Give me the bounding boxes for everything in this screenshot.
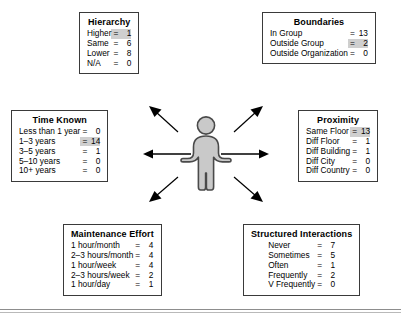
stat-row: Lower=8 xyxy=(87,48,131,58)
stat-rows-boundaries: In Group=13Outside Group=2Outside Organi… xyxy=(270,29,368,58)
stat-label: 1–3 years xyxy=(19,137,80,147)
stat-row: 1 hour/day=1 xyxy=(71,280,153,290)
stat-row: Diff Building=1 xyxy=(306,146,370,156)
stat-label: Same xyxy=(87,39,111,49)
stat-equals: = xyxy=(111,48,120,58)
stat-rows-proximity: Same Floor=13Diff Floor=1Diff Building=1… xyxy=(306,127,370,176)
stat-equals: = xyxy=(315,260,324,270)
stat-value: 0 xyxy=(324,280,335,290)
footer-rule-lower xyxy=(0,312,401,313)
arrow-up-right-icon xyxy=(234,106,263,132)
box-title: Hierarchy xyxy=(87,17,131,27)
box-title: Structured Interactions xyxy=(251,229,352,239)
box-title: Time Known xyxy=(19,115,100,125)
stat-row: Same=6 xyxy=(87,39,131,49)
stat-equals: = xyxy=(348,39,357,49)
stat-value: 8 xyxy=(120,48,131,58)
stat-equals: = xyxy=(111,39,120,49)
stat-equals: = xyxy=(133,260,142,270)
stat-label: Diff Country xyxy=(306,166,350,176)
stat-row: Sometimes=5 xyxy=(268,251,335,261)
stat-label: N/A xyxy=(87,58,111,68)
stat-row: 3–5 years=1 xyxy=(19,146,100,156)
stat-table: Never=7Sometimes=5Often=1Frequently=2V F… xyxy=(268,241,335,290)
stat-label: Sometimes xyxy=(268,251,315,261)
stat-box-structured-interactions: Structured Interactions Never=7Sometimes… xyxy=(243,224,360,296)
stat-row: Outside Organization=0 xyxy=(270,48,368,58)
stat-row: 10+ years=0 xyxy=(19,166,100,176)
stat-row: Often=1 xyxy=(268,260,335,270)
stat-value: 4 xyxy=(142,260,153,270)
stat-equals: = xyxy=(315,251,324,261)
stat-equals: = xyxy=(350,137,359,147)
footer-rule-upper xyxy=(0,309,401,310)
stat-box-proximity: Proximity Same Floor=13Diff Floor=1Diff … xyxy=(298,110,378,182)
stat-rows-hierarchy: Higher=1Same=6Lower=8N/A=0 xyxy=(87,29,131,68)
stat-value: 1 xyxy=(359,137,370,147)
stat-rows-structured-interactions: Never=7Sometimes=5Often=1Frequently=2V F… xyxy=(268,241,335,290)
stat-value: 0 xyxy=(357,48,368,58)
stat-label: 2–3 hours/month xyxy=(71,251,133,261)
stat-value: 1 xyxy=(359,146,370,156)
stat-label: Diff Floor xyxy=(306,137,350,147)
stat-equals: = xyxy=(80,137,89,147)
stat-rows-time-known: Less than 1 year=01–3 years=143–5 years=… xyxy=(19,127,100,176)
stat-value: 0 xyxy=(359,166,370,176)
stat-value: 1 xyxy=(142,280,153,290)
stat-box-hierarchy: Hierarchy Higher=1Same=6Lower=8N/A=0 xyxy=(79,12,139,74)
stat-value: 1 xyxy=(324,260,335,270)
stat-label: 1 hour/week xyxy=(71,260,133,270)
stat-label: V Frequently xyxy=(268,280,315,290)
stat-box-boundaries: Boundaries In Group=13Outside Group=2Out… xyxy=(262,12,376,64)
stat-value: 1 xyxy=(89,146,100,156)
stat-label: 10+ years xyxy=(19,166,80,176)
stat-value: 0 xyxy=(89,166,100,176)
stat-value: 2 xyxy=(357,39,368,49)
stat-box-maintenance-effort: Maintenance Effort 1 hour/month=42–3 hou… xyxy=(63,224,162,296)
stat-value: 4 xyxy=(142,251,153,261)
arrow-up-left-icon xyxy=(149,106,178,132)
stat-row: V Frequently=0 xyxy=(268,280,335,290)
stat-table: 1 hour/month=42–3 hours/month=41 hour/we… xyxy=(71,241,153,290)
stat-table: Same Floor=13Diff Floor=1Diff Building=1… xyxy=(306,127,370,176)
stat-equals: = xyxy=(133,251,142,261)
stat-row: 2–3 hours/month=4 xyxy=(71,251,153,261)
stat-table: Higher=1Same=6Lower=8N/A=0 xyxy=(87,29,131,68)
stat-value: 14 xyxy=(89,137,100,147)
box-title: Proximity xyxy=(306,115,370,125)
stat-equals: = xyxy=(80,146,89,156)
stat-equals: = xyxy=(350,166,359,176)
stat-label: Outside Organization xyxy=(270,48,348,58)
diagram-canvas: Hierarchy Higher=1Same=6Lower=8N/A=0 Bou… xyxy=(0,0,401,319)
stat-value: 0 xyxy=(120,58,131,68)
box-title: Boundaries xyxy=(270,17,368,27)
stat-row: Diff Floor=1 xyxy=(306,137,370,147)
arrow-left-icon xyxy=(143,150,191,159)
box-title: Maintenance Effort xyxy=(71,229,154,239)
stat-label: Outside Group xyxy=(270,39,348,49)
stat-value: 6 xyxy=(120,39,131,49)
stat-label: Lower xyxy=(87,48,111,58)
stat-row: Diff Country=0 xyxy=(306,166,370,176)
stat-rows-maintenance-effort: 1 hour/month=42–3 hours/month=41 hour/we… xyxy=(71,241,153,290)
stat-box-time-known: Time Known Less than 1 year=01–3 years=1… xyxy=(11,110,108,182)
stat-table: In Group=13Outside Group=2Outside Organi… xyxy=(270,29,368,58)
center-graphic xyxy=(131,95,281,213)
stat-row: 1 hour/week=4 xyxy=(71,260,153,270)
stat-value: 5 xyxy=(324,251,335,261)
arrow-right-icon xyxy=(221,150,269,159)
stat-equals: = xyxy=(133,280,142,290)
stat-label: Often xyxy=(268,260,315,270)
stat-equals: = xyxy=(315,280,324,290)
stat-equals: = xyxy=(80,166,89,176)
stat-equals: = xyxy=(348,48,357,58)
stat-table: Less than 1 year=01–3 years=143–5 years=… xyxy=(19,127,100,176)
stat-equals: = xyxy=(350,146,359,156)
stat-label: 3–5 years xyxy=(19,146,80,156)
stat-row: Outside Group=2 xyxy=(270,39,368,49)
stat-label: Diff Building xyxy=(306,146,350,156)
stat-label: 1 hour/day xyxy=(71,280,133,290)
arrow-down-left-icon xyxy=(149,177,178,202)
arrow-down-right-icon xyxy=(234,177,263,202)
stat-row: N/A=0 xyxy=(87,58,131,68)
